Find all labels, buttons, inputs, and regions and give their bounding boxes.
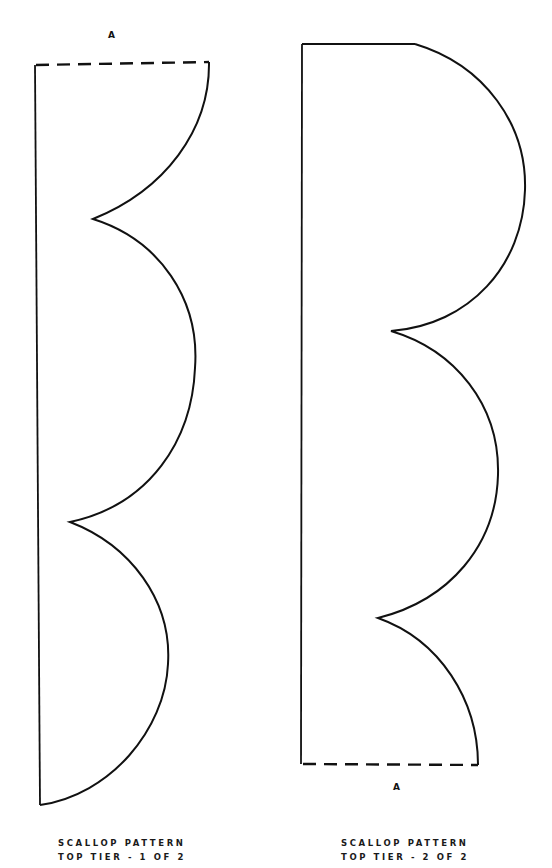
caption-title: SCALLOP PATTERN	[58, 836, 186, 850]
join-edge-dashed	[36, 62, 209, 65]
caption-title: SCALLOP PATTERN	[341, 836, 469, 850]
pattern-piece-2	[301, 44, 525, 765]
caption-piece-1: SCALLOP PATTERN TOP TIER - 1 OF 2	[58, 836, 186, 864]
straight-edge	[301, 44, 302, 764]
join-label-a-piece-2: A	[393, 782, 400, 792]
straight-edge	[35, 65, 40, 805]
caption-piece-2: SCALLOP PATTERN TOP TIER - 2 OF 2	[341, 836, 469, 864]
caption-subtitle: TOP TIER - 2 OF 2	[341, 850, 469, 864]
scalloped-edge	[378, 44, 525, 765]
pattern-piece-1	[35, 62, 209, 805]
scallop-pattern-drawing	[0, 0, 552, 868]
scalloped-edge	[40, 62, 209, 805]
join-edge-dashed	[303, 764, 478, 765]
join-label-a-piece-1: A	[108, 30, 115, 40]
caption-subtitle: TOP TIER - 1 OF 2	[58, 850, 186, 864]
